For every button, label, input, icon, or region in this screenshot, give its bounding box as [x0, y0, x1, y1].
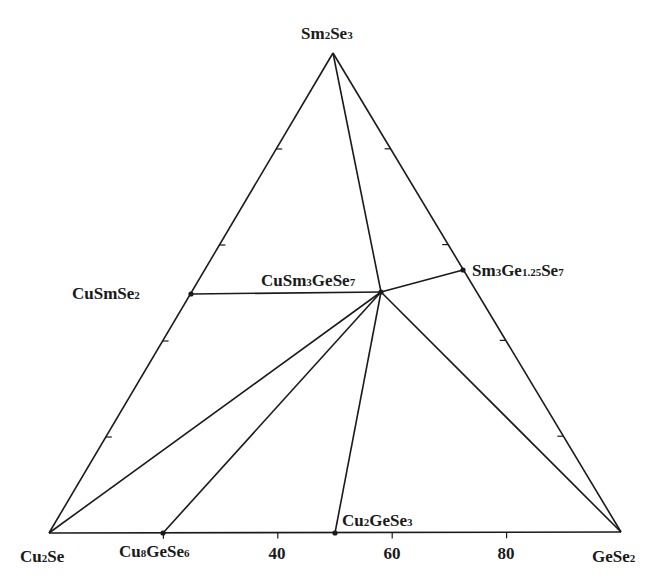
vertex-label-sm2se3: Sm2Se3 — [301, 25, 353, 42]
compound-points — [160, 267, 465, 535]
compound-label-sm3ge125se7: Sm3Ge1.25Se7 — [472, 262, 564, 279]
vertex-label-gese2: GeSe2 — [592, 548, 635, 565]
axis-tick-label: 40 — [269, 545, 286, 562]
compound-point — [378, 289, 383, 294]
compound-point — [460, 267, 465, 272]
tie-line — [381, 292, 621, 532]
axis-tick-label: 80 — [498, 545, 515, 562]
tie-line — [191, 292, 381, 294]
compound-label-cusm3gese7: CuSm3GeSe7 — [261, 272, 355, 289]
compound-point — [332, 530, 337, 535]
vertex-label-cu2se: Cu2Se — [20, 548, 64, 565]
compound-point — [188, 291, 193, 296]
tie-line — [49, 292, 381, 533]
tie-line — [333, 53, 381, 292]
compound-label-cu2gese3: Cu2GeSe3 — [342, 512, 413, 529]
tie-line — [163, 292, 381, 533]
tie-line — [381, 270, 463, 292]
tie-line — [335, 292, 381, 533]
compound-label-cu8gese6: Cu8GeSe6 — [119, 543, 190, 560]
compound-label-cusmse2: CuSmSe2 — [72, 285, 140, 302]
compound-point — [160, 530, 165, 535]
axis-tick-label: 60 — [384, 545, 401, 562]
